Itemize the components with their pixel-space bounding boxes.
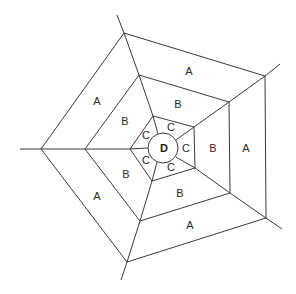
- label-c-bottom: C: [167, 161, 175, 173]
- label-a-right: A: [242, 142, 250, 154]
- middle-pentagon: [85, 75, 230, 221]
- outer-pentagon: [41, 33, 266, 262]
- label-c-upper-left: C: [142, 129, 150, 141]
- label-a-top: A: [185, 65, 193, 77]
- pentagon-zone-diagram: A A A A A B B B B B C C C C C D: [0, 0, 296, 294]
- label-c-top: C: [167, 121, 175, 133]
- label-a-bottom: A: [186, 219, 194, 231]
- label-d-center: D: [160, 142, 168, 154]
- label-b-bottom: B: [176, 187, 183, 199]
- label-b-upper-left: B: [121, 115, 128, 127]
- diagram-canvas: A A A A A B B B B B C C C C C D: [0, 0, 296, 294]
- label-c-right: C: [182, 142, 190, 154]
- label-c-lower-left: C: [142, 154, 150, 166]
- label-a-upper-left: A: [93, 95, 101, 107]
- label-b-top: B: [174, 98, 181, 110]
- label-b-lower-left: B: [122, 168, 129, 180]
- label-a-lower-left: A: [93, 190, 101, 202]
- label-b-right: B: [209, 142, 216, 154]
